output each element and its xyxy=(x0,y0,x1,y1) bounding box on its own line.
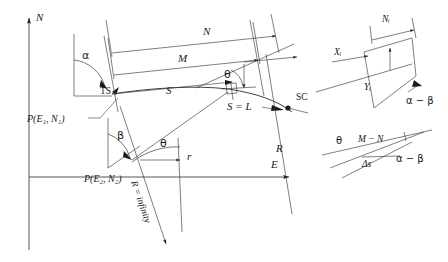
sc-point: SC xyxy=(285,92,308,113)
dim-m-label: M xyxy=(177,52,188,64)
north-axis: N xyxy=(29,11,44,250)
sc-tail xyxy=(288,108,308,113)
inset1-x-label: Xᵢ xyxy=(333,47,342,57)
p1-annotation: P(E₁, N₁) xyxy=(26,98,118,125)
inset1-n-dim xyxy=(372,30,414,40)
diagram-canvas: N E α TS P(E₁, N₁) S xyxy=(0,0,448,262)
r-vertical-line xyxy=(178,138,182,232)
inset1-n-label: Nᵢ xyxy=(381,14,390,24)
inset1-y-label: Yᵢ xyxy=(364,82,371,92)
ts-label: TS xyxy=(100,86,111,96)
theta-upper-label: θ xyxy=(224,68,231,81)
inset1-top-edge xyxy=(364,38,412,52)
north-axis-label: N xyxy=(35,11,44,23)
beta-label: β xyxy=(117,129,124,142)
theta-upper: θ xyxy=(222,64,256,89)
inset-top-right: Xᵢ Nᵢ Yᵢ α − β xyxy=(316,14,434,108)
theta-upper-base xyxy=(222,87,256,89)
inset2-delta-s-label: Δs xyxy=(361,159,372,169)
beta-angle: β xyxy=(108,118,140,168)
sc-tangent-arrow-line xyxy=(244,57,297,62)
east-axis: E xyxy=(29,158,289,177)
sc-label: SC xyxy=(296,92,308,102)
radius-r-label: R xyxy=(275,142,283,154)
inset1-n-tick-left xyxy=(370,26,372,44)
inset1-angle-label: α − β xyxy=(406,95,434,106)
band-rail-right xyxy=(250,20,264,96)
sc-tangent-line xyxy=(196,44,294,88)
radial-to-center xyxy=(132,92,228,160)
s-equals-l-label: S = L xyxy=(227,100,252,112)
inset-bottom-right: θ M − N Δs α − β xyxy=(322,130,432,178)
chord-s-label: S xyxy=(166,84,172,96)
inset2-angle-label: α − β xyxy=(396,153,424,164)
dim-n-label: N xyxy=(202,25,211,37)
alpha-label: α xyxy=(82,49,89,62)
theta-lower: θ r xyxy=(132,137,192,162)
east-axis-label: E xyxy=(270,158,278,170)
p2-label: P(E₂, N₂) xyxy=(83,173,122,185)
theta-lower-label: θ xyxy=(160,137,167,150)
radius-upper-seg xyxy=(231,84,233,100)
ts-point: TS xyxy=(100,86,119,96)
radius-line-r xyxy=(266,54,292,214)
dim-m: M xyxy=(108,22,260,79)
inset2-theta-label: θ xyxy=(336,135,342,146)
radius-infinity-line: R = infinity xyxy=(120,106,166,244)
spiral-curve-diagram: N E α TS P(E₁, N₁) S xyxy=(0,0,448,262)
dim-n-right-tick xyxy=(271,14,279,53)
inset2-delta-s-line xyxy=(362,156,400,157)
tangent-r-label: r xyxy=(187,150,192,162)
p1-label: P(E₁, N₁) xyxy=(26,113,65,125)
inset1-left-edge xyxy=(364,52,374,108)
inset1-n-tick-right xyxy=(412,18,416,38)
band-rail-left xyxy=(104,36,118,112)
inset2-m-minus-n-label: M − N xyxy=(357,134,384,144)
spiral-curve xyxy=(112,87,292,112)
radius-infinity-label: R = infinity xyxy=(129,178,153,224)
inset1-right-edge xyxy=(412,38,416,76)
